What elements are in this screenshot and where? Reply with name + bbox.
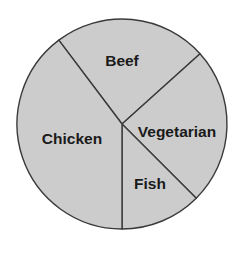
pie-slice-label-chicken: Chicken [42,130,102,147]
pie-slice-label-fish: Fish [134,175,166,192]
pie-chart-svg: BeefVegetarianFishChicken [0,0,242,255]
pie-slice-label-beef: Beef [105,52,139,69]
pie-chart: BeefVegetarianFishChicken [0,0,242,255]
pie-slice-label-vegetarian: Vegetarian [138,123,216,140]
